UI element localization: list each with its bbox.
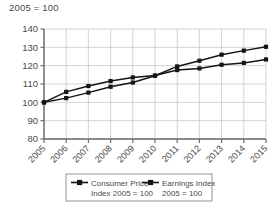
x-axis-ticks: 2005200620072008200920102011201220132014…: [26, 139, 269, 165]
line-chart-plot: 1401301201101009080 20052006200720082009…: [0, 0, 275, 205]
x-tick-label: 2007: [71, 143, 92, 164]
x-tick-label: 2010: [137, 143, 158, 164]
series-1-marker: [264, 57, 268, 61]
legend-marker-0: [77, 180, 82, 185]
series-0-marker: [64, 96, 68, 100]
x-tick-label: 2013: [204, 143, 225, 164]
series-1-marker: [197, 66, 201, 70]
y-tick-label: 120: [22, 60, 38, 71]
series-1-marker: [109, 79, 113, 83]
series-1-marker: [175, 68, 179, 72]
legend-sublabel-0: Index 2005 = 100: [91, 189, 154, 198]
series-0-marker: [175, 64, 179, 68]
chart-container: 2005 = 100 1401301201101009080 200520062…: [0, 0, 275, 205]
y-axis-ticks: 1401301201101009080: [22, 23, 44, 144]
series-1-marker: [153, 73, 157, 77]
x-tick-label: 2011: [160, 143, 181, 164]
y-tick-label: 140: [22, 23, 38, 34]
series-1-marker: [220, 63, 224, 67]
series-1-marker: [42, 100, 46, 104]
y-tick-label: 80: [27, 133, 38, 144]
y-tick-label: 110: [23, 78, 38, 89]
x-tick-label: 2014: [226, 143, 247, 164]
series-0-marker: [197, 59, 201, 63]
series-1-marker: [242, 61, 246, 65]
series-0-marker: [131, 80, 135, 84]
x-tick-label: 2012: [182, 143, 203, 164]
x-tick-label: 2009: [115, 143, 136, 164]
x-tick-label: 2006: [48, 143, 69, 164]
legend-label-1: Earnings Index: [162, 179, 215, 188]
legend-label-0: Consumer Price: [91, 179, 149, 188]
series-1-marker: [64, 90, 68, 94]
x-tick-label: 2015: [248, 143, 269, 164]
series-0-marker: [109, 85, 113, 89]
series-1-marker: [86, 84, 90, 88]
chart-legend: Consumer PriceIndex 2005 = 100Earnings I…: [66, 174, 215, 201]
series-0-marker: [264, 45, 268, 49]
y-tick-label: 100: [22, 97, 38, 108]
series-0-marker: [242, 49, 246, 53]
y-tick-label: 130: [22, 42, 38, 53]
legend-marker-1: [148, 180, 153, 185]
legend-sublabel-1: 2005 = 100: [162, 189, 203, 198]
series-1-marker: [131, 75, 135, 79]
y-tick-label: 90: [27, 115, 38, 126]
x-tick-label: 2008: [93, 143, 114, 164]
grid-lines: [44, 29, 266, 139]
series-0-marker: [86, 91, 90, 95]
x-tick-label: 2005: [26, 143, 47, 164]
series-0-marker: [220, 53, 224, 57]
